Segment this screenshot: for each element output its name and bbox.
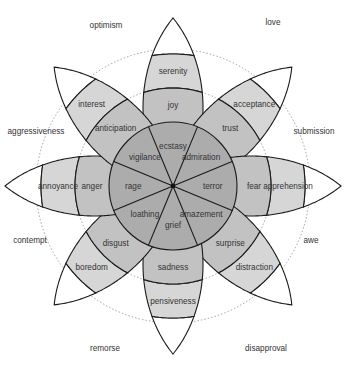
label-basic-surprise: surprise: [216, 239, 246, 248]
dyad-label-awe: awe: [303, 236, 318, 245]
label-mild-serenity: serenity: [159, 67, 189, 76]
label-basic-fear: fear: [247, 182, 261, 191]
label-basic-trust: trust: [222, 124, 239, 133]
label-intense-admiration: admiration: [182, 153, 221, 162]
label-intense-rage: rage: [125, 182, 142, 191]
label-intense-amazement: amazement: [180, 210, 224, 219]
label-mild-interest: interest: [78, 100, 106, 109]
dyad-label-aggressiveness: aggressiveness: [8, 127, 65, 136]
label-intense-grief: grief: [165, 221, 182, 230]
label-intense-vigilance: vigilance: [129, 153, 161, 162]
label-mild-apprehension: apprehension: [263, 182, 313, 191]
label-intense-terror: terror: [203, 182, 223, 191]
label-basic-joy: joy: [167, 101, 179, 110]
petal-tip: [152, 18, 194, 56]
label-mild-pensiveness: pensiveness: [150, 297, 196, 306]
label-basic-anger: anger: [82, 182, 103, 191]
label-mild-annoyance: annoyance: [38, 182, 79, 191]
dyad-label-submission: submission: [294, 127, 335, 136]
center-dot: [171, 184, 176, 189]
label-mild-acceptance: acceptance: [233, 100, 275, 109]
label-basic-anticipation: anticipation: [95, 124, 137, 133]
dyad-label-disapproval: disapproval: [245, 344, 287, 353]
dyad-label-optimism: optimism: [90, 21, 123, 30]
label-basic-disgust: disgust: [103, 239, 130, 248]
dyad-label-contempt: contempt: [13, 236, 47, 245]
emotion-wheel-diagram: serenityjoyecstasyacceptancetrustadmirat…: [0, 0, 345, 366]
label-mild-distraction: distraction: [236, 263, 274, 272]
dyad-label-love: love: [265, 18, 280, 27]
petal-tip: [152, 316, 194, 354]
label-mild-boredom: boredom: [76, 263, 108, 272]
dyad-label-remorse: remorse: [90, 344, 120, 353]
label-intense-ecstasy: ecstasy: [159, 142, 188, 151]
label-intense-loathing: loathing: [131, 210, 160, 219]
label-basic-sadness: sadness: [158, 263, 189, 272]
